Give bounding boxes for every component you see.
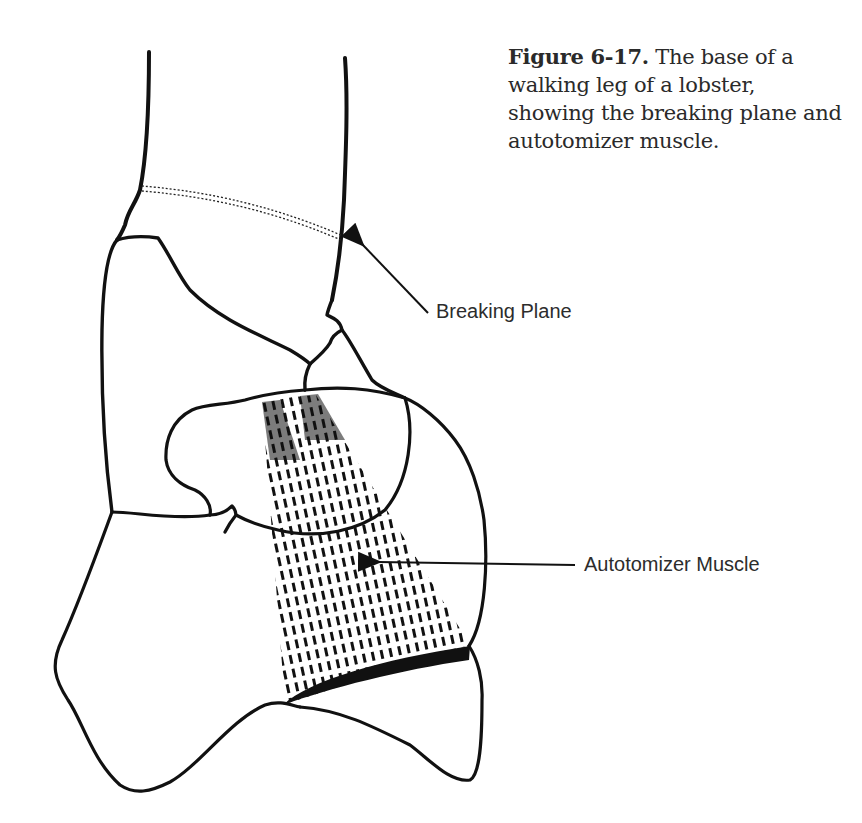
leader-lines [362,244,575,565]
breaking-plane-line [142,186,343,240]
lobster-leg-figure: Figure 6-17. The base of a walking leg o… [0,0,862,823]
figure-number: Figure 6-17. [508,44,649,69]
upper-leg-segment [117,52,347,300]
breaking-plane-arrow [362,244,428,313]
label-autotomizer-muscle: Autotomizer Muscle [584,553,760,576]
figure-caption: Figure 6-17. The base of a walking leg o… [508,43,848,155]
label-breaking-plane: Breaking Plane [436,300,572,323]
autotomizer-muscle [262,394,470,705]
